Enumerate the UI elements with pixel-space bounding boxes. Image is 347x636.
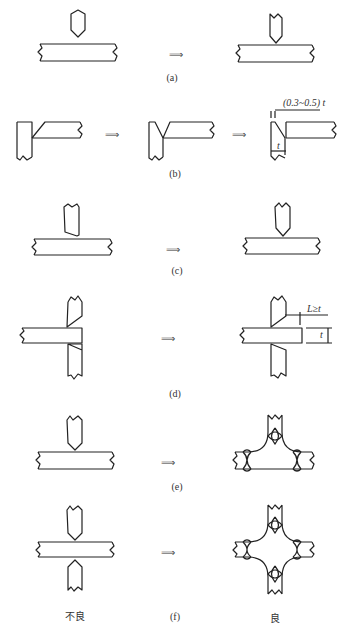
gap-annotation: (0.3~0.5) t [283, 97, 326, 109]
thickness-annotation: t [320, 329, 323, 340]
panel-b: ⟹ ⟹ (0.3~0.5) t t (b) [17, 97, 336, 180]
vertical-member-bad [64, 204, 79, 236]
lower-member-bad [68, 344, 82, 379]
vertical-member-good [275, 203, 290, 236]
panel-label: (f) [170, 611, 180, 623]
bad-label: 不良 [65, 610, 85, 622]
arrow: ⟹ [161, 457, 175, 468]
arrow: ⟹ [169, 49, 183, 60]
upper-member-bad [67, 296, 82, 327]
arrow: ⟹ [166, 244, 180, 255]
vertical-member-bad [67, 416, 82, 450]
plate-bad [36, 452, 114, 469]
vertical-plate-bad [17, 122, 32, 160]
plate-good [236, 45, 314, 62]
panel-label: (d) [169, 388, 181, 400]
panel-label: (c) [171, 265, 182, 277]
plate-good [240, 328, 302, 343]
upper-member-good [271, 296, 286, 327]
panel-label: (b) [169, 168, 181, 180]
lower-member-good [271, 344, 286, 378]
welding-joint-diagram: ⟹ (a) ⟹ ⟹ (0.3~0.5) t t (b) ⟹ (c) [0, 0, 347, 636]
arrow: ⟹ [161, 333, 175, 344]
horizontal-plate-mid [163, 122, 214, 138]
upper-member-bad [67, 506, 82, 540]
panel-label: (e) [171, 481, 182, 493]
lower-member-bad [68, 560, 82, 591]
vertical-member-bad [71, 10, 85, 37]
plate-bad [20, 328, 82, 343]
horizontal-plate-good [286, 122, 336, 138]
gap-dimension-line [271, 110, 320, 118]
arrow: ⟹ [232, 129, 246, 140]
arrow: ⟹ [105, 129, 119, 140]
plate-bad [32, 239, 112, 255]
vertical-plate-mid [149, 122, 163, 160]
vertical-member-good [270, 14, 282, 43]
arrow: ⟹ [161, 547, 175, 558]
horizontal-plate-bad [32, 122, 82, 138]
panel-e: ⟹ (e) [36, 415, 314, 493]
plate-bad [38, 44, 117, 61]
panel-f: ⟹ 不良 (f) 良 [36, 505, 314, 624]
panel-a: ⟹ (a) [38, 10, 314, 84]
plate-bad [36, 542, 114, 557]
weld-bead-icons [243, 517, 301, 582]
good-label: 良 [270, 612, 280, 624]
plate-good [243, 238, 320, 254]
panel-c: ⟹ (c) [32, 203, 320, 277]
length-annotation: L≥t [306, 303, 321, 314]
panel-label: (a) [166, 72, 177, 84]
weld-bead-icons [243, 428, 301, 471]
thickness-annotation: t [277, 140, 280, 151]
panel-d: ⟹ L≥t t (d) [20, 296, 332, 400]
